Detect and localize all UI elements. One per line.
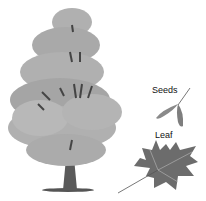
leaf-label: Leaf bbox=[155, 131, 173, 140]
leaf-drawing bbox=[118, 140, 198, 193]
maple-tree-illustration: Seeds Leaf bbox=[0, 0, 206, 201]
seeds-label: Seeds bbox=[152, 86, 178, 95]
tree-drawing bbox=[0, 0, 206, 201]
foliage bbox=[8, 8, 122, 166]
